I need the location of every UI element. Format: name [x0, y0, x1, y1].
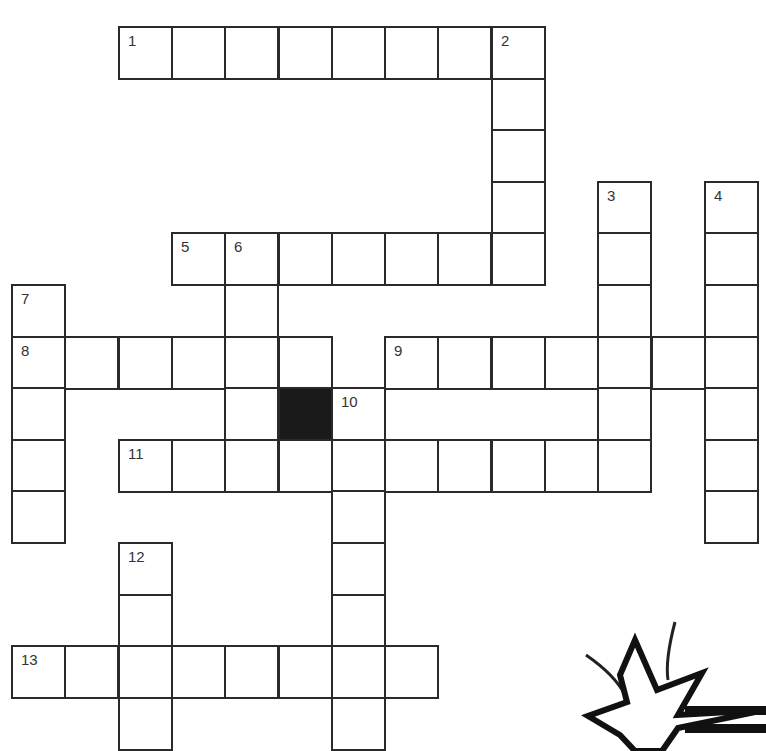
crossword-cell[interactable] — [597, 284, 652, 338]
clue-number: 8 — [21, 343, 29, 358]
crossword-cell[interactable] — [118, 697, 173, 751]
crossword-cell[interactable] — [331, 490, 386, 544]
crossword-cell[interactable]: 6 — [224, 232, 279, 286]
crossword-cell[interactable] — [171, 26, 226, 80]
crossword-cell[interactable]: 5 — [171, 232, 226, 286]
crossword-cell[interactable] — [331, 542, 386, 596]
crossword-cell[interactable] — [224, 284, 279, 338]
crossword-cell[interactable] — [224, 26, 279, 80]
crossword-cell[interactable]: 2 — [491, 26, 546, 80]
crossword-cell[interactable] — [491, 78, 546, 132]
crossword-cell[interactable] — [491, 181, 546, 235]
crossword-cell[interactable] — [118, 645, 173, 699]
clue-number: 11 — [128, 446, 144, 461]
crossword-cell[interactable] — [331, 645, 386, 699]
crossword-cell[interactable] — [171, 336, 226, 390]
crossword-cell[interactable] — [491, 439, 546, 493]
crossword-cell[interactable] — [331, 232, 386, 286]
crossword-cell[interactable] — [597, 336, 652, 390]
crossword-cell[interactable] — [704, 284, 759, 338]
crossword-cell[interactable] — [118, 594, 173, 648]
crossword-cell[interactable] — [224, 387, 279, 441]
crossword-cell[interactable]: 1 — [118, 26, 173, 80]
crossword-cell[interactable] — [11, 439, 66, 493]
crossword-cell[interactable] — [64, 645, 119, 699]
crossword-cell[interactable] — [437, 26, 492, 80]
crossword-cell[interactable] — [278, 232, 333, 286]
crossword-cell[interactable] — [704, 490, 759, 544]
crossword-cell[interactable] — [171, 439, 226, 493]
clue-number: 13 — [21, 652, 38, 667]
crossword-cell[interactable] — [118, 336, 173, 390]
crossword-cell[interactable] — [224, 645, 279, 699]
clue-number: 2 — [501, 33, 509, 48]
clue-number: 5 — [181, 239, 189, 254]
crossword-cell[interactable] — [704, 387, 759, 441]
crossword-cell[interactable] — [651, 336, 706, 390]
crossword-cell[interactable] — [704, 232, 759, 286]
clue-number: 6 — [234, 239, 242, 254]
crossword-cell[interactable]: 10 — [331, 387, 386, 441]
crossword-cell[interactable] — [384, 439, 439, 493]
crossword-cell[interactable] — [278, 439, 333, 493]
crossword-cell[interactable] — [11, 387, 66, 441]
starburst-icon — [560, 600, 766, 751]
crossword-cell[interactable] — [544, 336, 599, 390]
crossword-cell[interactable] — [597, 232, 652, 286]
crossword-cell[interactable] — [384, 26, 439, 80]
crossword-cell[interactable] — [704, 336, 759, 390]
crossword-cell[interactable]: 3 — [597, 181, 652, 235]
crossword-cell[interactable] — [331, 439, 386, 493]
crossword-cell[interactable] — [278, 645, 333, 699]
crossword-cell[interactable] — [597, 387, 652, 441]
crossword-cell[interactable] — [278, 336, 333, 390]
crossword-cell[interactable] — [491, 336, 546, 390]
clue-number: 9 — [394, 343, 402, 358]
crossword-cell[interactable] — [597, 439, 652, 493]
crossword-cell[interactable] — [437, 439, 492, 493]
clue-number: 4 — [714, 188, 722, 203]
crossword-cell[interactable] — [384, 232, 439, 286]
clue-number: 7 — [21, 291, 29, 306]
crossword-cell[interactable] — [331, 26, 386, 80]
crossword-cell[interactable]: 13 — [11, 645, 66, 699]
clue-number: 1 — [128, 33, 136, 48]
crossword-cell[interactable] — [171, 645, 226, 699]
crossword-cell[interactable]: 12 — [118, 542, 173, 596]
black-cell — [278, 387, 333, 441]
crossword-cell[interactable]: 11 — [118, 439, 173, 493]
crossword-cell[interactable]: 7 — [11, 284, 66, 338]
crossword-cell[interactable] — [491, 129, 546, 183]
crossword-cell[interactable] — [704, 439, 759, 493]
crossword-cell[interactable]: 4 — [704, 181, 759, 235]
crossword-cell[interactable] — [331, 594, 386, 648]
clue-number: 12 — [128, 549, 145, 564]
crossword-cell[interactable] — [544, 439, 599, 493]
crossword-cell[interactable] — [224, 439, 279, 493]
crossword-cell[interactable] — [437, 336, 492, 390]
crossword-cell[interactable] — [384, 645, 439, 699]
crossword-cell[interactable]: 8 — [11, 336, 66, 390]
clue-number: 3 — [607, 188, 615, 203]
crossword-cell[interactable] — [224, 336, 279, 390]
clue-number: 10 — [341, 394, 358, 409]
crossword-cell[interactable] — [491, 232, 546, 286]
crossword-cell[interactable] — [331, 697, 386, 751]
crossword-cell[interactable] — [437, 232, 492, 286]
crossword-cell[interactable] — [11, 490, 66, 544]
crossword-cell[interactable] — [64, 336, 119, 390]
crossword-cell[interactable] — [278, 26, 333, 80]
crossword-cell[interactable]: 9 — [384, 336, 439, 390]
